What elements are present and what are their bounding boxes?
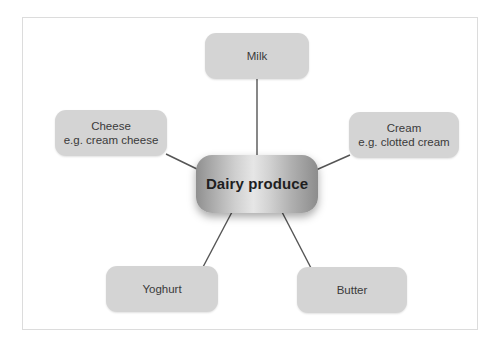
node-cheese[interactable]: Cheese e.g. cream cheese xyxy=(55,110,167,156)
node-cheese-detail: e.g. cream cheese xyxy=(64,133,159,147)
connector-center-to-butter xyxy=(282,212,311,268)
node-cream-detail: e.g. clotted cream xyxy=(358,135,449,149)
node-butter-label: Butter xyxy=(337,283,368,297)
node-milk[interactable]: Milk xyxy=(205,33,309,79)
node-butter[interactable]: Butter xyxy=(297,267,407,313)
node-cheese-label: Cheese xyxy=(91,120,131,132)
node-milk-label: Milk xyxy=(247,49,267,63)
diagram-canvas: Milk Cheese e.g. cream cheese Cream e.g.… xyxy=(0,0,502,347)
node-dairy-produce-label: Dairy produce xyxy=(206,175,308,194)
node-dairy-produce[interactable]: Dairy produce xyxy=(196,155,318,213)
node-yoghurt[interactable]: Yoghurt xyxy=(106,266,218,312)
node-cream-text: Cream e.g. clotted cream xyxy=(358,121,449,150)
node-yoghurt-label: Yoghurt xyxy=(142,282,181,296)
node-cheese-text: Cheese e.g. cream cheese xyxy=(64,119,159,148)
node-cream[interactable]: Cream e.g. clotted cream xyxy=(349,112,459,158)
connector-center-to-yoghurt xyxy=(203,212,232,267)
node-cream-label: Cream xyxy=(387,122,422,134)
connector-center-to-cheese xyxy=(166,154,199,170)
connector-center-to-cream xyxy=(316,155,350,170)
